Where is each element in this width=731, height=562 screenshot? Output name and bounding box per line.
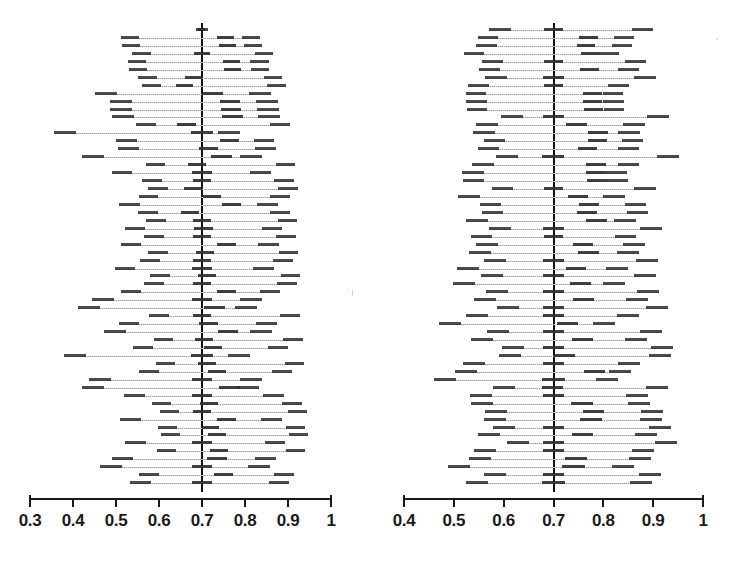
interval-upper-cap bbox=[235, 306, 257, 309]
interval-upper-cap bbox=[647, 115, 669, 118]
confidence-interval-row bbox=[149, 313, 300, 320]
interval-lower-cap bbox=[470, 394, 492, 397]
interval-line bbox=[146, 165, 296, 166]
confidence-interval-row bbox=[78, 305, 257, 312]
interval-upper-cap bbox=[265, 441, 286, 444]
interval-lower-cap bbox=[466, 92, 486, 95]
confidence-interval-row bbox=[124, 393, 284, 400]
axis-tick bbox=[115, 498, 117, 507]
interval-line bbox=[458, 197, 625, 198]
point-estimate-marker bbox=[543, 115, 563, 118]
confidence-interval-row bbox=[139, 472, 294, 479]
point-estimate-marker bbox=[543, 259, 564, 262]
interval-line bbox=[484, 420, 662, 421]
interval-lower-cap bbox=[501, 115, 523, 118]
axis-line bbox=[30, 498, 331, 500]
point-estimate-marker bbox=[586, 171, 606, 174]
interval-lower-cap bbox=[453, 282, 475, 285]
confidence-interval-row bbox=[480, 202, 646, 209]
confidence-interval-row bbox=[453, 281, 625, 288]
confidence-interval-row bbox=[501, 114, 669, 121]
point-estimate-marker bbox=[181, 211, 199, 214]
point-estimate-marker bbox=[192, 465, 212, 468]
interval-line bbox=[484, 141, 642, 142]
point-estimate-marker bbox=[188, 163, 206, 166]
confidence-interval-row bbox=[125, 226, 283, 233]
interval-line bbox=[64, 356, 250, 357]
point-estimate-marker bbox=[192, 378, 213, 381]
confidence-interval-row bbox=[463, 361, 639, 368]
interval-upper-cap bbox=[622, 139, 643, 142]
confidence-interval-row bbox=[92, 297, 262, 304]
interval-upper-cap bbox=[617, 314, 639, 317]
interval-upper-cap bbox=[255, 147, 276, 150]
interval-line bbox=[476, 125, 645, 126]
confidence-interval-row bbox=[140, 258, 293, 265]
interval-lower-cap bbox=[112, 457, 133, 460]
confidence-interval-row bbox=[158, 425, 305, 432]
interval-line bbox=[472, 165, 639, 166]
interval-upper-cap bbox=[258, 243, 279, 246]
confidence-interval-row bbox=[457, 266, 628, 273]
interval-line bbox=[457, 269, 628, 270]
interval-line bbox=[493, 388, 668, 389]
point-estimate-marker bbox=[573, 298, 594, 301]
interval-line bbox=[144, 284, 296, 285]
confidence-interval-row bbox=[132, 51, 273, 58]
interval-lower-cap bbox=[467, 108, 487, 111]
interval-upper-cap bbox=[280, 314, 300, 317]
point-estimate-marker bbox=[566, 267, 587, 270]
interval-line bbox=[110, 102, 278, 103]
interval-upper-cap bbox=[274, 473, 294, 476]
interval-lower-cap bbox=[468, 84, 489, 87]
interval-upper-cap bbox=[240, 155, 262, 158]
interval-lower-cap bbox=[142, 179, 162, 182]
interval-upper-cap bbox=[606, 267, 628, 270]
interval-line bbox=[485, 412, 663, 413]
confidence-interval-row bbox=[484, 138, 642, 145]
interval-lower-cap bbox=[476, 123, 498, 126]
interval-line bbox=[112, 117, 281, 118]
interval-upper-cap bbox=[640, 330, 662, 333]
interval-lower-cap bbox=[125, 441, 146, 444]
interval-lower-cap bbox=[466, 314, 488, 317]
interval-line bbox=[492, 189, 655, 190]
axis-tick-label: 0.8 bbox=[592, 511, 615, 531]
interval-upper-cap bbox=[640, 227, 662, 230]
interval-lower-cap bbox=[482, 60, 503, 63]
confidence-interval-row bbox=[64, 353, 250, 360]
point-estimate-marker bbox=[219, 386, 240, 389]
confidence-interval-row bbox=[485, 75, 656, 82]
confidence-interval-row bbox=[89, 377, 262, 384]
interval-upper-cap bbox=[267, 84, 286, 87]
confidence-interval-row bbox=[496, 154, 679, 161]
interval-lower-cap bbox=[54, 131, 76, 134]
point-estimate-marker bbox=[199, 322, 218, 325]
interval-lower-cap bbox=[466, 219, 488, 222]
interval-lower-cap bbox=[478, 147, 499, 150]
point-estimate-marker bbox=[554, 354, 575, 357]
interval-upper-cap bbox=[257, 108, 279, 111]
confidence-interval-row bbox=[471, 401, 649, 408]
forest-plot-figure: 0.30.40.50.60.70.80.91 0.40.50.60.70.80.… bbox=[0, 0, 731, 562]
interval-upper-cap bbox=[270, 211, 290, 214]
confidence-interval-row bbox=[466, 91, 623, 98]
interval-line bbox=[489, 229, 662, 230]
axis-tick bbox=[403, 495, 405, 507]
interval-upper-cap bbox=[286, 449, 305, 452]
point-estimate-marker bbox=[207, 457, 227, 460]
interval-lower-cap bbox=[457, 267, 479, 270]
confidence-interval-row bbox=[476, 122, 645, 129]
interval-upper-cap bbox=[612, 44, 632, 47]
interval-upper-cap bbox=[596, 378, 618, 381]
confidence-interval-row bbox=[476, 242, 644, 249]
interval-upper-cap bbox=[264, 76, 283, 79]
plot-area-right bbox=[366, 0, 731, 497]
interval-lower-cap bbox=[484, 418, 506, 421]
interval-lower-cap bbox=[489, 227, 511, 230]
point-estimate-marker bbox=[543, 362, 564, 365]
interval-lower-cap bbox=[154, 338, 173, 341]
axis-tick bbox=[503, 498, 505, 507]
interval-upper-cap bbox=[286, 426, 305, 429]
confidence-interval-row bbox=[497, 305, 668, 312]
